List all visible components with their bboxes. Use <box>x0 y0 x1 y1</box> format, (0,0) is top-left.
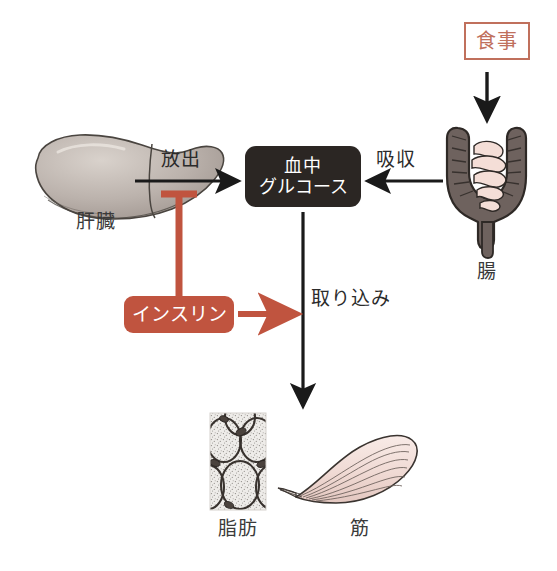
muscle-illustration <box>278 436 417 503</box>
blood-glucose-label-line1: 血中 <box>284 156 322 177</box>
insulin-glucose-diagram: 食事 血中 グルコース インスリン 放出 吸収 取り込み 肝臓 腸 脂肪 筋 <box>0 0 557 571</box>
blood-glucose-node: 血中 グルコース <box>245 146 361 207</box>
fat-label: 脂肪 <box>198 519 278 538</box>
meal-label: 食事 <box>476 31 518 51</box>
insulin-label: インスリン <box>132 305 227 324</box>
edge-label-release: 放出 <box>161 150 201 169</box>
liver-label: 肝臓 <box>56 212 136 231</box>
fat-tissue-illustration <box>192 399 288 510</box>
insulin-inhibition-connector <box>161 194 197 296</box>
edge-label-absorption: 吸収 <box>376 150 416 169</box>
diagram-artwork-layer <box>0 0 557 571</box>
meal-node: 食事 <box>464 22 530 60</box>
intestine-illustration <box>447 128 526 258</box>
muscle-label: 筋 <box>330 519 390 538</box>
insulin-node: インスリン <box>124 296 234 333</box>
blood-glucose-label-line2: グルコース <box>259 177 348 198</box>
edge-label-uptake: 取り込み <box>311 289 391 308</box>
intestine-label: 腸 <box>452 262 522 281</box>
